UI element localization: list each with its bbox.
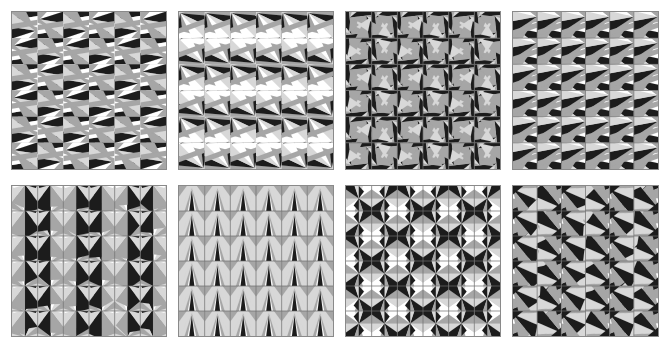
tile-cell xyxy=(256,236,282,261)
tile-cell xyxy=(230,286,256,311)
tile-cell xyxy=(307,286,333,311)
tile-cell xyxy=(230,311,256,336)
tiling-panel-2 xyxy=(178,11,334,170)
tile-cell xyxy=(230,211,256,236)
tiling-canvas xyxy=(179,12,333,169)
tile-cell xyxy=(282,261,308,286)
tile-cell xyxy=(256,261,282,286)
tile-cell xyxy=(179,261,205,286)
tiling-canvas xyxy=(513,186,658,336)
tiling-canvas xyxy=(513,12,658,169)
tiling-canvas xyxy=(179,186,333,336)
tile-cell xyxy=(282,236,308,261)
tiling-panel-3 xyxy=(345,11,501,170)
tile-cell xyxy=(205,261,231,286)
tile-cell xyxy=(307,261,333,286)
tiling-panel-4 xyxy=(512,11,659,170)
tile-cell xyxy=(282,186,308,211)
tile-cell xyxy=(282,286,308,311)
tile-cell xyxy=(205,186,231,211)
tile-cell xyxy=(179,186,205,211)
tile-cell xyxy=(256,186,282,211)
tile-cell xyxy=(256,211,282,236)
tile-cell xyxy=(282,311,308,336)
tile-cell xyxy=(205,236,231,261)
tile-cell xyxy=(230,186,256,211)
tiling-panel-6 xyxy=(178,185,334,337)
tile-cell xyxy=(179,311,205,336)
tiling-panel-5 xyxy=(11,185,167,337)
tile-cell xyxy=(205,211,231,236)
tile-cell xyxy=(307,311,333,336)
tile-cell xyxy=(179,211,205,236)
tile-cell xyxy=(230,236,256,261)
tile-cell xyxy=(179,286,205,311)
tiling-canvas xyxy=(346,12,500,169)
tile-cell xyxy=(179,236,205,261)
tile-cell xyxy=(205,311,231,336)
tile-cell xyxy=(256,311,282,336)
tiling-pattern-figure xyxy=(0,0,669,347)
tile-cell xyxy=(282,211,308,236)
tiling-panel-8 xyxy=(512,185,659,337)
tile-cell xyxy=(205,286,231,311)
tiling-panel-7 xyxy=(345,185,501,337)
tile-cell xyxy=(256,286,282,311)
tile-cell xyxy=(230,261,256,286)
tiling-canvas xyxy=(12,186,166,336)
tiling-panel-1 xyxy=(11,11,167,170)
tile-cell xyxy=(307,211,333,236)
tile-cell xyxy=(307,186,333,211)
tiling-canvas xyxy=(12,12,166,169)
tiling-canvas xyxy=(346,186,500,336)
tile-cell xyxy=(307,236,333,261)
